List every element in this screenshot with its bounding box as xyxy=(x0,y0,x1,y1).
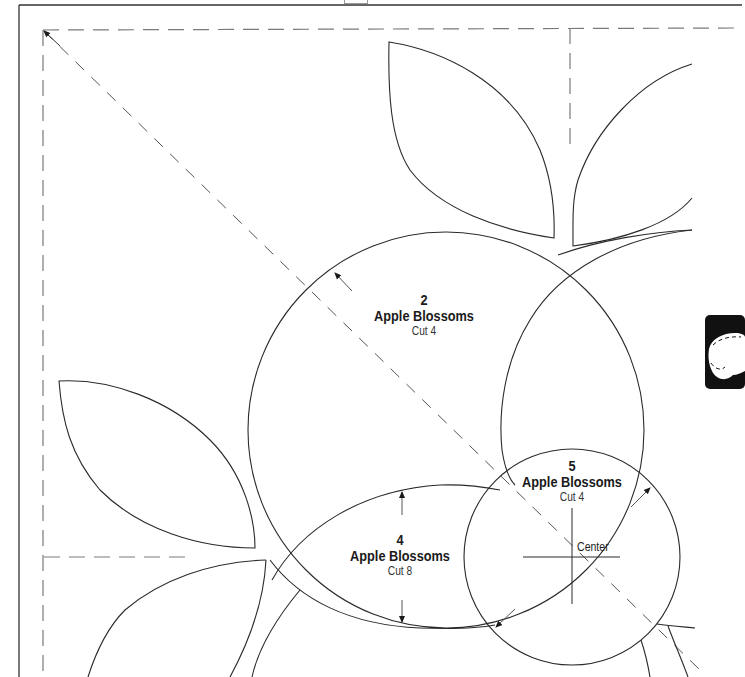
piece-5-number: 5 xyxy=(522,458,622,473)
piece-2-cut: Cut 4 xyxy=(374,325,474,337)
piece-4-name: Apple Blossoms xyxy=(350,548,450,563)
piece-4-label: 4 Apple Blossoms Cut 8 xyxy=(341,532,459,577)
piece-4-cut: Cut 8 xyxy=(350,565,450,577)
block-dashed-outline xyxy=(43,28,742,677)
leaf-left-upper xyxy=(59,381,255,548)
leaf-top-left xyxy=(389,42,554,238)
section-thumb-tab xyxy=(705,315,745,389)
piece-5-label: 5 Apple Blossoms Cut 4 xyxy=(513,458,631,503)
leaf-left-lower xyxy=(88,560,266,677)
piece-4-number: 4 xyxy=(350,532,450,547)
piece-2-number: 2 xyxy=(374,292,474,307)
piece-5-cut: Cut 4 xyxy=(522,491,622,503)
center-crosshair xyxy=(523,508,620,604)
piece-2-name: Apple Blossoms xyxy=(374,308,474,323)
piece-2-label: 2 Apple Blossoms Cut 4 xyxy=(365,292,483,337)
piece-2-grain-arrow xyxy=(335,273,352,291)
center-label: Center xyxy=(577,540,609,554)
piece-2-right-outline xyxy=(501,230,692,485)
piece-5-grain-arrow-sw xyxy=(496,609,515,627)
piece-4-outline xyxy=(252,485,500,677)
piece-5-name: Apple Blossoms xyxy=(522,474,622,489)
leaf-top-right xyxy=(558,64,692,255)
apple-blossom-section-tab-icon xyxy=(705,315,745,389)
